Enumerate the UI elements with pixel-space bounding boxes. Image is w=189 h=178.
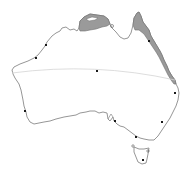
- marker-cairns[interactable]: [148, 40, 150, 42]
- marker-brisbane[interactable]: [174, 92, 176, 94]
- marker-sydney[interactable]: [161, 121, 163, 123]
- marker-tasmania-north[interactable]: [132, 145, 134, 147]
- marker-port-hedland[interactable]: [35, 57, 37, 59]
- tasmania-coastline: [134, 147, 149, 164]
- marker-melbourne[interactable]: [135, 136, 137, 138]
- marker-perth[interactable]: [24, 110, 26, 112]
- marker-adelaide[interactable]: [114, 120, 116, 122]
- australia-map: [0, 0, 189, 178]
- marker-hobart[interactable]: [142, 159, 144, 161]
- marker-center[interactable]: [96, 70, 98, 72]
- marker-darwin[interactable]: [45, 44, 47, 46]
- map-canvas: [0, 0, 189, 178]
